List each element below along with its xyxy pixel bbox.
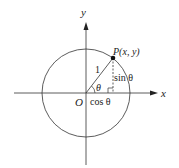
cos-label: cos θ bbox=[90, 96, 111, 107]
y-axis-arrow-icon bbox=[84, 22, 89, 30]
point-label: P(x, y) bbox=[112, 46, 140, 58]
sin-label: sin θ bbox=[114, 72, 133, 83]
radius-label: 1 bbox=[95, 64, 100, 75]
x-axis-label: x bbox=[160, 87, 166, 99]
right-angle-marker bbox=[108, 88, 113, 93]
origin-label: O bbox=[75, 96, 83, 108]
y-axis-label: y bbox=[80, 6, 86, 18]
angle-label: θ bbox=[96, 82, 101, 93]
angle-arc bbox=[92, 86, 96, 93]
x-axis-arrow-icon bbox=[150, 91, 158, 96]
unit-circle-diagram: y x O P(x, y) 1 θ sin θ cos θ bbox=[0, 0, 179, 168]
